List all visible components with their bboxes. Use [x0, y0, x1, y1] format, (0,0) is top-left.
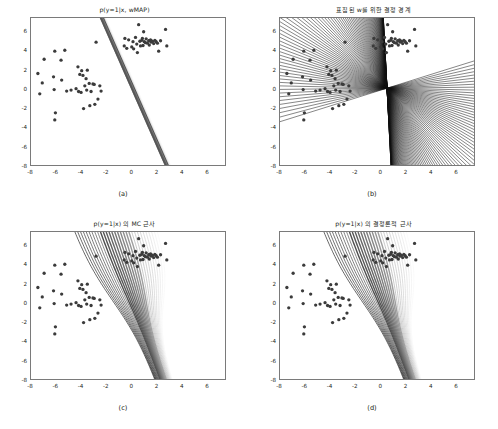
y-tick-label: -6	[13, 358, 27, 364]
y-tick-label: -4	[262, 124, 276, 130]
x-tick-label: 6	[200, 169, 214, 175]
panel-b-title: 표집된 w를 위한 결정 경계	[249, 6, 498, 14]
x-tick-label: -4	[74, 169, 88, 175]
y-tick-label: -6	[13, 144, 27, 150]
plot-svg	[280, 18, 474, 165]
figure-canvas: p(y=1|x, wMAP) (a) -8-6-4-202466420-2-4-…	[0, 0, 498, 429]
panel-b-caption: (b)	[342, 190, 402, 198]
x-tick-label: 4	[424, 383, 438, 389]
x-tick-label: -2	[99, 383, 113, 389]
x-tick-label: 6	[449, 169, 463, 175]
plot-svg	[31, 232, 225, 379]
y-tick-label: -8	[13, 377, 27, 383]
x-tick-label: -4	[74, 383, 88, 389]
x-tick-label: -8	[272, 169, 286, 175]
x-tick-label: 0	[124, 383, 138, 389]
y-tick-label: -4	[13, 124, 27, 130]
y-tick-label: 6	[262, 242, 276, 248]
y-tick-label: 4	[262, 261, 276, 267]
y-tick-label: -2	[13, 319, 27, 325]
y-tick-label: 2	[13, 281, 27, 287]
y-tick-label: 0	[13, 86, 27, 92]
x-tick-label: 4	[175, 169, 189, 175]
y-tick-label: -4	[13, 338, 27, 344]
panel-a-title: p(y=1|x, wMAP)	[0, 6, 249, 14]
panel-b-plot-area	[279, 17, 475, 166]
y-tick-label: -4	[262, 338, 276, 344]
panel-d: p(y=1|x) 의 결정론적 근사 (d) -8-6-4-202466420-…	[249, 214, 498, 429]
panel-d-plot-area	[279, 231, 475, 380]
y-tick-label: 4	[262, 47, 276, 53]
panel-d-title: p(y=1|x) 의 결정론적 근사	[249, 220, 498, 228]
y-tick-label: 4	[13, 47, 27, 53]
x-tick-label: 4	[175, 383, 189, 389]
x-tick-label: -8	[23, 383, 37, 389]
y-tick-label: 6	[13, 242, 27, 248]
y-tick-label: 0	[262, 300, 276, 306]
x-tick-label: -4	[323, 383, 337, 389]
x-tick-label: 4	[424, 169, 438, 175]
panel-d-caption: (d)	[342, 404, 402, 412]
panel-c-title: p(y=1|x) 의 MC 근사	[0, 220, 249, 228]
y-tick-label: 2	[13, 67, 27, 73]
y-tick-label: -8	[262, 163, 276, 169]
panel-b: 표집된 w를 위한 결정 경계 (b) -8-6-4-202466420-2-4…	[249, 0, 498, 215]
panel-a-plot-area	[30, 17, 226, 166]
x-tick-label: -2	[99, 169, 113, 175]
y-tick-label: 2	[262, 67, 276, 73]
x-tick-label: 0	[373, 383, 387, 389]
x-tick-label: -6	[48, 383, 62, 389]
y-tick-label: -8	[262, 377, 276, 383]
panel-c: p(y=1|x) 의 MC 근사 (c) -8-6-4-202466420-2-…	[0, 214, 249, 429]
y-tick-label: 0	[262, 86, 276, 92]
x-tick-label: 6	[200, 383, 214, 389]
x-tick-label: 0	[124, 169, 138, 175]
y-tick-label: 0	[13, 300, 27, 306]
y-tick-label: 4	[13, 261, 27, 267]
x-tick-label: -6	[48, 169, 62, 175]
y-tick-label: 6	[13, 28, 27, 34]
x-tick-label: 0	[373, 169, 387, 175]
y-tick-label: 6	[262, 28, 276, 34]
x-tick-label: 2	[149, 169, 163, 175]
plot-svg	[31, 18, 225, 165]
plot-svg	[280, 232, 474, 379]
panel-c-caption: (c)	[93, 404, 153, 412]
y-tick-label: -6	[262, 144, 276, 150]
x-tick-label: -2	[348, 383, 362, 389]
x-tick-label: -4	[323, 169, 337, 175]
x-tick-label: 6	[449, 383, 463, 389]
y-tick-label: -2	[13, 105, 27, 111]
y-tick-label: 2	[262, 281, 276, 287]
x-tick-label: -8	[23, 169, 37, 175]
y-tick-label: -8	[13, 163, 27, 169]
x-tick-label: 2	[398, 169, 412, 175]
x-tick-label: -2	[348, 169, 362, 175]
x-tick-label: 2	[149, 383, 163, 389]
x-tick-label: 2	[398, 383, 412, 389]
panel-a: p(y=1|x, wMAP) (a) -8-6-4-202466420-2-4-…	[0, 0, 249, 215]
x-tick-label: -6	[297, 383, 311, 389]
y-tick-label: -2	[262, 319, 276, 325]
y-tick-label: -2	[262, 105, 276, 111]
scatter-points	[36, 23, 168, 122]
x-tick-label: -6	[297, 169, 311, 175]
y-tick-label: -6	[262, 358, 276, 364]
panel-a-caption: (a)	[93, 190, 153, 198]
x-tick-label: -8	[272, 383, 286, 389]
panel-c-plot-area	[30, 231, 226, 380]
